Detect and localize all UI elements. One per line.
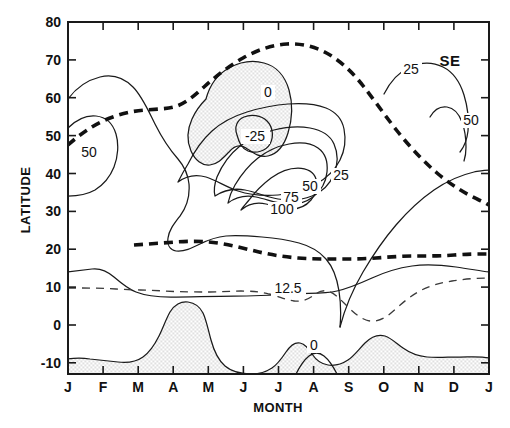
y-tick-label: 70 [45,52,61,68]
y-tick-label: 20 [45,241,61,257]
x-tick-label: S [344,379,353,395]
contour-label-text: 25 [333,167,349,183]
contour-label-text: 0 [310,337,318,353]
contour-label: 0 [307,337,321,353]
contour-label: 25 [331,167,352,183]
contour-label: 50 [300,178,321,194]
contour-label: 50 [461,112,482,128]
contour-label-text: -25 [245,128,265,144]
y-tick-label: 60 [45,90,61,106]
x-tick-label: M [132,379,144,395]
y-axis-title: LATITUDE [18,167,33,234]
x-tick-label: M [202,379,214,395]
y-tick-label: 50 [45,128,61,144]
contour-label: 12.5 [271,280,306,296]
region-label-se: SE [439,52,460,69]
contour-label: -25 [241,128,270,144]
x-tick-label: D [449,379,459,395]
x-tick-label: A [309,379,319,395]
x-axis-title: MONTH [253,400,303,415]
x-tick-label: J [485,379,493,395]
x-tick-label: A [168,379,178,395]
y-tick-label: 40 [45,166,61,182]
contour-label-text: 50 [302,178,318,194]
contour-label: 50 [79,144,99,160]
y-tick-label: 30 [45,203,61,219]
x-tick-label: F [99,379,108,395]
contour-label-text: 50 [81,144,97,160]
contour-plot-figure: 80 70 60 50 40 30 20 10 0 -10 J F M A M … [0,0,510,428]
contour-label: 25 [401,61,422,77]
x-tick-label: J [64,379,72,395]
contour-label: 0 [261,84,275,100]
contour-label-text: 0 [264,84,272,100]
y-tick-label: 0 [53,317,61,333]
contour-label-text: 25 [403,61,419,77]
x-tick-label: O [378,379,389,395]
y-tick-label: -10 [41,355,61,371]
x-tick-label: N [414,379,424,395]
contour-label-text: 50 [463,112,479,128]
y-tick-label: 80 [45,14,61,30]
y-tick-label: 10 [45,279,61,295]
contour-label: 100 [268,201,297,217]
x-tick-label: J [240,379,248,395]
contour-label-text: 12.5 [274,280,301,296]
x-tick-label: J [275,379,283,395]
contour-label-text: 100 [270,201,294,217]
